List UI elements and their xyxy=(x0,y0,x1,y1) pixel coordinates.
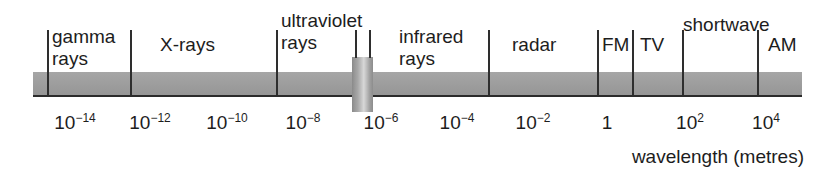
band-label-FM: FM xyxy=(602,34,629,56)
band-label-X-rays: X-rays xyxy=(160,34,215,56)
spectrum-baseline xyxy=(33,95,802,97)
tick-label-4: 10−6 xyxy=(364,112,399,134)
divider-radar-fm xyxy=(597,30,599,95)
tick-exponent: −10 xyxy=(227,111,247,125)
band-label-line: ultraviolet xyxy=(281,10,362,32)
axis-caption: wavelength (metres) xyxy=(632,146,804,168)
tick-mantissa: 10 xyxy=(516,112,537,133)
tick-exponent: 4 xyxy=(773,111,780,125)
tick-mantissa: 10 xyxy=(206,112,227,133)
band-label-line: rays xyxy=(281,32,362,54)
band-label-line: radar xyxy=(512,34,556,56)
tick-label-1: 10−12 xyxy=(129,112,171,134)
band-label-radar: radar xyxy=(512,34,556,56)
tick-mantissa: 10 xyxy=(54,112,75,133)
electromagnetic-spectrum-figure: gammaraysX-raysultravioletraysinfraredra… xyxy=(0,0,834,180)
tick-exponent: −4 xyxy=(461,111,475,125)
tick-exponent: −6 xyxy=(385,111,399,125)
tick-mantissa: 10 xyxy=(676,112,697,133)
tick-mantissa: 10 xyxy=(440,112,461,133)
divider-xrays-uv xyxy=(276,30,278,95)
tick-mantissa: 10 xyxy=(364,112,385,133)
divider-gamma-xrays xyxy=(130,30,132,95)
band-label-line: infrared xyxy=(399,26,463,48)
divider-tv-shortwave xyxy=(682,30,684,95)
band-label-line: rays xyxy=(399,48,463,70)
band-label-ultraviolet-rays: ultravioletrays xyxy=(281,10,362,54)
band-label-line: AM xyxy=(768,34,797,56)
tick-label-6: 10−2 xyxy=(516,112,551,134)
visible-light-band xyxy=(352,57,373,112)
band-label-line: TV xyxy=(640,34,664,56)
visible-light-tick-right xyxy=(369,30,371,58)
tick-label-7: 1 xyxy=(602,112,613,134)
band-label-line: rays xyxy=(52,48,115,70)
band-label-gamma-rays: gammarays xyxy=(52,26,115,70)
tick-exponent: 2 xyxy=(697,111,704,125)
tick-label-8: 102 xyxy=(676,112,704,134)
tick-label-5: 10−4 xyxy=(440,112,475,134)
tick-mantissa: 1 xyxy=(602,112,613,133)
tick-label-3: 10−8 xyxy=(286,112,321,134)
tick-mantissa: 10 xyxy=(129,112,150,133)
tick-exponent: −14 xyxy=(75,111,95,125)
divider-shortwave-am xyxy=(757,30,759,95)
band-label-TV: TV xyxy=(640,34,664,56)
tick-mantissa: 10 xyxy=(286,112,307,133)
spectrum-bar xyxy=(33,72,802,95)
band-label-line: gamma xyxy=(52,26,115,48)
tick-mantissa: 10 xyxy=(752,112,773,133)
band-label-line: shortwave xyxy=(683,14,770,36)
tick-label-9: 104 xyxy=(752,112,780,134)
tick-label-2: 10−10 xyxy=(206,112,248,134)
tick-exponent: −2 xyxy=(537,111,551,125)
band-label-infrared-rays: infraredrays xyxy=(399,26,463,70)
divider-infrared-radar xyxy=(488,30,490,95)
band-label-shortwave: shortwave xyxy=(683,14,770,36)
band-label-line: FM xyxy=(602,34,629,56)
band-label-AM: AM xyxy=(768,34,797,56)
tick-exponent: −8 xyxy=(307,111,321,125)
divider-gamma-start xyxy=(47,30,49,95)
tick-exponent: −12 xyxy=(150,111,170,125)
divider-fm-tv xyxy=(632,30,634,95)
band-label-line: X-rays xyxy=(160,34,215,56)
tick-label-0: 10−14 xyxy=(54,112,96,134)
